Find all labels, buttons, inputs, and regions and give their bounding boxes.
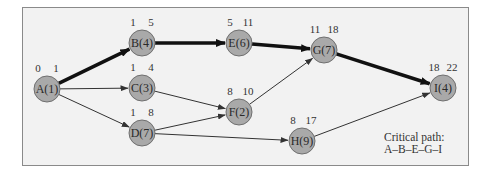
early-start: 11 (310, 23, 321, 35)
node-label: F(2) (229, 105, 250, 119)
node-H: H(9)817 (289, 114, 317, 154)
legend-title: Critical path: (384, 131, 444, 143)
early-finish: 17 (306, 114, 318, 126)
edge-D-F (155, 115, 226, 130)
early-start: 8 (290, 114, 296, 126)
early-start: 18 (429, 61, 441, 73)
early-finish: 5 (148, 16, 154, 28)
node-D: D(7)18 (129, 106, 155, 146)
early-finish: 4 (148, 61, 154, 73)
early-start: 1 (130, 16, 136, 28)
early-finish: 11 (243, 16, 254, 28)
early-start: 5 (227, 16, 233, 28)
edge-E-G (252, 44, 310, 49)
node-I: I(4)1822 (429, 61, 458, 101)
early-start: 1 (130, 61, 136, 73)
node-B: B(4)15 (129, 16, 155, 56)
early-start: 1 (130, 106, 136, 118)
early-finish: 22 (447, 61, 458, 73)
node-label: C(3) (131, 81, 153, 95)
node-label: A(1) (36, 82, 59, 96)
node-label: E(6) (228, 36, 249, 50)
critical-path-legend: Critical path: A–B–E–G–I (384, 131, 444, 155)
node-label: G(7) (313, 43, 336, 57)
node-label: D(7) (131, 126, 154, 140)
edge-H-I (314, 93, 430, 137)
edge-A-B (59, 49, 130, 83)
node-G: G(7)1118 (310, 23, 339, 63)
edge-A-C (60, 88, 128, 89)
node-C: C(3)14 (129, 61, 155, 101)
node-label: H(9) (291, 134, 314, 148)
early-finish: 1 (53, 62, 59, 74)
edge-A-D (59, 94, 130, 127)
node-label: I(4) (434, 81, 452, 95)
edge-G-I (336, 54, 429, 84)
node-F: F(2)810 (226, 85, 254, 125)
legend-path: A–B–E–G–I (384, 143, 444, 155)
node-A: A(1)01 (34, 62, 60, 102)
early-start: 8 (227, 85, 233, 97)
early-finish: 18 (328, 23, 340, 35)
edge-F-G (250, 58, 313, 104)
early-finish: 10 (243, 85, 255, 97)
node-label: B(4) (131, 36, 153, 50)
edge-C-F (155, 91, 226, 109)
node-E: E(6)511 (226, 16, 253, 56)
edge-D-H (155, 134, 288, 141)
early-finish: 8 (148, 106, 154, 118)
early-start: 0 (35, 62, 41, 74)
